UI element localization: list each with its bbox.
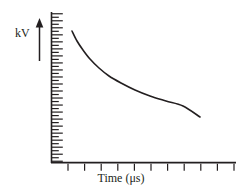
up-arrow-icon <box>36 18 44 28</box>
x-axis-label: Time (μs) <box>0 172 242 184</box>
y-axis-label: kV <box>15 27 30 39</box>
y-axis-ticks <box>52 14 63 161</box>
x-axis-ticks <box>68 164 234 171</box>
x-axis-group <box>51 163 236 171</box>
y-axis-group <box>52 12 63 163</box>
figure-container: kV Time (μs) <box>0 0 242 195</box>
plot-canvas <box>0 0 242 195</box>
voltage-decay-curve <box>72 31 200 117</box>
y-axis-arrow <box>36 18 44 61</box>
